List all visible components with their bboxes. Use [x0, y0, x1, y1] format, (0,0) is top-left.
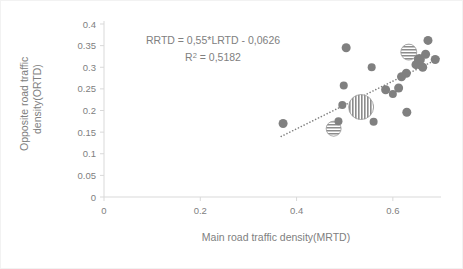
data-points: [279, 36, 440, 136]
x-axis-tick-labels: 00.20.40.6: [101, 205, 399, 216]
data-point: [381, 85, 390, 94]
data-point: [394, 84, 403, 93]
data-point: [338, 101, 346, 109]
data-point: [334, 117, 342, 125]
x-axis-title: Main road traffic density(MRTD): [202, 231, 350, 243]
y-axis-tick-label: 0: [91, 192, 96, 203]
chart-canvas: 00.050.10.150.20.250.30.350.4 00.20.40.6…: [1, 1, 463, 269]
y-axis-tick-label: 0.4: [83, 19, 96, 30]
y-axis-tick-label: 0.05: [78, 170, 97, 181]
y-axis-tick-label: 0.15: [78, 127, 97, 138]
r-squared-label: R2 = 0,5182: [185, 51, 241, 64]
data-point: [402, 69, 411, 78]
data-point: [279, 119, 288, 128]
r-squared-value: = 0,5182: [197, 51, 241, 63]
regression-equation-label: RRTD = 0,55*LRTD - 0,0626: [146, 34, 280, 46]
y-axis-tick-label: 0.35: [78, 40, 97, 51]
y-axis-tick-label: 0.3: [83, 62, 96, 73]
y-axis-tick-label: 0.1: [83, 148, 96, 159]
data-point: [342, 43, 351, 52]
x-axis-tick-label: 0.2: [194, 205, 207, 216]
data-point: [431, 55, 440, 64]
y-axis-title-line-1: Opposite road traffic: [18, 57, 30, 151]
x-axis-tick-label: 0.6: [386, 205, 399, 216]
y-axis-tick-label: 0.2: [83, 105, 96, 116]
scatter-chart: 00.050.10.150.20.250.30.350.4 00.20.40.6…: [0, 0, 463, 269]
data-point: [424, 36, 433, 45]
axes: [100, 21, 441, 201]
data-point: [418, 63, 427, 72]
data-point: [402, 108, 411, 117]
data-point: [368, 63, 376, 71]
x-axis-tick-label: 0: [101, 205, 106, 216]
data-point: [421, 50, 430, 59]
data-point: [340, 81, 348, 89]
y-axis-tick-labels: 00.050.10.150.20.250.30.350.4: [78, 19, 97, 203]
x-axis-tick-label: 0.4: [290, 205, 303, 216]
y-axis-title-line-2: density(ORTD): [31, 64, 43, 134]
y-axis-title: Opposite road traffic density(ORTD): [18, 57, 43, 151]
data-point: [349, 95, 374, 120]
y-axis-tick-label: 0.25: [78, 83, 97, 94]
data-point: [370, 118, 378, 126]
